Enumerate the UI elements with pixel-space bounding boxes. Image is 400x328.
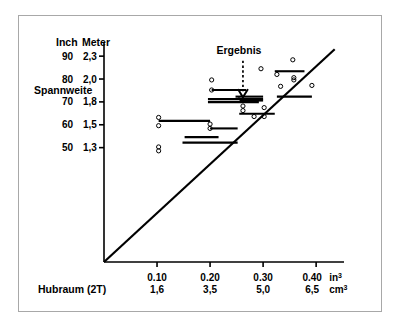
data-point-marker	[262, 106, 266, 110]
annotation-label: Ergebnis	[216, 44, 261, 56]
y-tick-label-inch: 70	[62, 96, 74, 107]
figure-container: 902,3802,0701,8601,5501,3InchMeterSpannw…	[0, 0, 400, 328]
data-point-marker	[208, 122, 212, 126]
data-point-marker	[310, 83, 314, 87]
x-tick-label-cm: 3,5	[203, 284, 217, 295]
y-tick-label-meter: 1,8	[83, 96, 97, 107]
x-tick-label-inch: 0.30	[253, 272, 273, 283]
x-tick-label-cm: 1,6	[150, 284, 164, 295]
nomogram-chart: 902,3802,0701,8601,5501,3InchMeterSpannw…	[0, 0, 400, 328]
y-axis-header-meter: Meter	[82, 36, 110, 48]
data-point-marker	[259, 67, 263, 71]
y-tick-label-meter: 1,5	[83, 119, 97, 130]
x-unit-cm: cm3	[329, 284, 347, 295]
data-point-marker	[157, 115, 161, 119]
y-tick-label-meter: 2,3	[83, 51, 97, 62]
y-tick-label-inch: 90	[62, 51, 74, 62]
data-point-marker	[157, 124, 161, 128]
data-point-marker	[279, 84, 283, 88]
data-point-marker	[210, 78, 214, 82]
y-tick-label-inch: 50	[62, 142, 74, 153]
y-tick-label-meter: 1,3	[83, 142, 97, 153]
data-point-marker	[252, 114, 256, 118]
data-point-marker	[241, 104, 245, 108]
x-tick-label-cm: 6,5	[305, 284, 319, 295]
x-axis-title: Hubraum (2T)	[38, 283, 106, 295]
x-tick-label-cm: 5,0	[256, 284, 270, 295]
x-tick-label-inch: 0.10	[147, 272, 167, 283]
data-point-marker	[241, 108, 245, 112]
x-tick-label-inch: 0.40	[302, 272, 322, 283]
y-axis-header-inch: Inch	[56, 36, 78, 48]
x-tick-label-inch: 0.20	[200, 272, 220, 283]
y-tick-label-inch: 60	[62, 119, 74, 130]
x-unit-inch: in3	[329, 272, 342, 283]
y-axis-title: Spannweite	[34, 84, 93, 96]
trend-line	[104, 49, 335, 262]
data-point-marker	[291, 58, 295, 62]
data-point-marker	[275, 72, 279, 76]
